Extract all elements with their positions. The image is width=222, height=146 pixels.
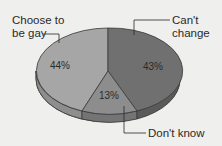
percent-cant-change: 43% [143, 61, 163, 72]
label-choose-to-be-gay: Choose to be gay [12, 14, 64, 40]
label-cant-change: Can't change [172, 14, 210, 40]
label-dont-know: Don't know [148, 127, 205, 140]
percent-choose-to-be-gay: 44% [50, 60, 70, 71]
percent-dont-know: 13% [99, 90, 119, 101]
